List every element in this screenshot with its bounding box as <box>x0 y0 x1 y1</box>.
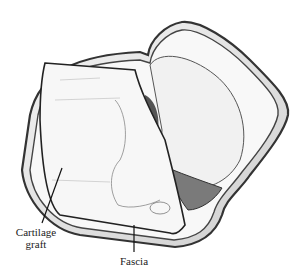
label-cartilage-line1: Cartilage <box>10 226 62 238</box>
label-cartilage-line2: graft <box>10 238 62 250</box>
label-cartilage-graft: Cartilage graft <box>10 226 62 250</box>
illustration: Cartilage graft Fascia <box>0 0 307 278</box>
label-fascia: Fascia <box>114 255 154 267</box>
